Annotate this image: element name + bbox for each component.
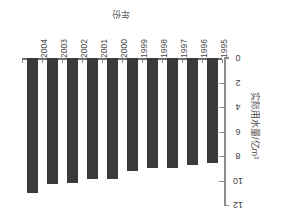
value-tick-label: 4 xyxy=(230,101,246,113)
bar xyxy=(127,58,138,171)
category-tick xyxy=(82,59,83,63)
value-tick-label: 0 xyxy=(230,52,246,64)
category-tick xyxy=(22,59,23,63)
x-tick-label: 1997 xyxy=(177,22,191,58)
category-tick xyxy=(222,59,223,63)
category-tick xyxy=(62,59,63,63)
bar xyxy=(147,58,158,168)
value-tick xyxy=(219,181,224,182)
bar xyxy=(67,58,78,183)
x-tick-label: 1995 xyxy=(217,22,231,58)
category-tick xyxy=(162,59,163,63)
value-tick-label: 10 xyxy=(230,175,246,187)
bar xyxy=(47,58,58,184)
value-tick-label: 2 xyxy=(230,77,246,89)
x-tick-label: 2000 xyxy=(117,22,131,58)
category-tick xyxy=(142,59,143,63)
value-tick-label: 8 xyxy=(230,150,246,162)
value-axis-bottom-cap xyxy=(224,205,229,207)
x-tick-label: 2001 xyxy=(97,22,111,58)
category-tick xyxy=(42,59,43,63)
x-axis-title: 年份 xyxy=(104,6,138,22)
x-tick-label: 2004 xyxy=(37,22,51,58)
value-tick xyxy=(219,132,224,133)
category-tick xyxy=(102,59,103,63)
value-tick-label: 6 xyxy=(230,126,246,138)
x-tick-label: 1999 xyxy=(137,22,151,58)
category-tick xyxy=(182,59,183,63)
bar xyxy=(107,58,118,179)
plot-area xyxy=(22,58,222,205)
y-axis-title: 实际用水量/亿m³ xyxy=(248,92,262,192)
value-axis-top-cap xyxy=(224,57,229,59)
bar xyxy=(27,58,38,193)
value-tick xyxy=(219,156,224,157)
value-tick xyxy=(219,107,224,108)
water-usage-bar-chart: 年份 2004 2003 2002 2001 2000 1999 1998 19… xyxy=(0,0,282,223)
x-tick-label: 2003 xyxy=(57,22,71,58)
bar xyxy=(207,58,218,163)
x-tick-label: 1998 xyxy=(157,22,171,58)
x-tick-label: 2002 xyxy=(77,22,91,58)
value-tick xyxy=(219,83,224,84)
x-tick-label: 1996 xyxy=(197,22,211,58)
value-tick-label: 12 xyxy=(230,199,246,211)
category-tick xyxy=(202,59,203,63)
value-axis-line xyxy=(224,57,226,206)
bar xyxy=(167,58,178,168)
category-tick xyxy=(122,59,123,63)
bar xyxy=(87,58,98,179)
bar xyxy=(187,58,198,165)
